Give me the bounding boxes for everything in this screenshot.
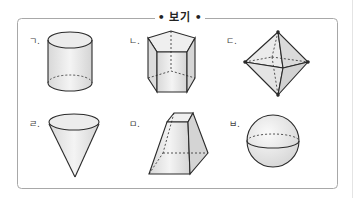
label-nieun: ㄴ. <box>129 36 140 46</box>
cone-shape <box>49 114 99 177</box>
label-mieum: ㅁ. <box>129 119 140 129</box>
square-frustum-shape <box>149 113 208 174</box>
octahedron-shape <box>244 31 309 96</box>
page-edge-divider <box>352 0 353 198</box>
diagram-svg <box>0 0 356 198</box>
label-bieup: ㅂ. <box>229 119 240 129</box>
pentagonal-prism-shape <box>148 31 195 92</box>
label-digeut: ㄷ. <box>226 36 237 46</box>
label-giyeok: ㄱ. <box>29 36 40 46</box>
sphere-shape <box>247 115 299 167</box>
box-title: • 보기 • <box>155 10 205 26</box>
cylinder-shape <box>48 32 92 91</box>
label-rieul: ㄹ. <box>29 119 40 129</box>
figure-canvas: • 보기 • ㄱ. ㄴ. ㄷ. ㄹ. ㅁ. ㅂ. <box>0 0 356 198</box>
